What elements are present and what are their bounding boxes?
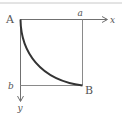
label-origin-a: A [5, 13, 15, 26]
label-x-mark-a: a [78, 8, 83, 18]
diagram-canvas: A a x b B y [0, 0, 122, 120]
label-y-axis: y [17, 103, 24, 113]
label-end-point-b: B [85, 84, 93, 97]
curve-a-to-b [21, 20, 83, 86]
label-y-mark-b: b [8, 81, 14, 91]
label-x-axis: x [110, 15, 115, 25]
